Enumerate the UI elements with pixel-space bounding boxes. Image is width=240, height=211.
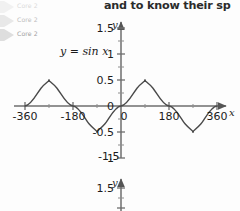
y-tick-label: -0.5: [93, 126, 114, 139]
x-tick-label: -180: [61, 110, 86, 123]
y-tick-label-minus-1-5: -1.5: [98, 150, 114, 163]
chevron-right-icon: [0, 1, 14, 13]
sine-graph-figure: x y -360 -180 0 180 360 1.5 1 0.5 0 -0.5…: [0, 18, 240, 163]
x-tick-label-origin: 0: [121, 110, 128, 123]
y-tick-label-2: 1.5: [97, 182, 115, 195]
y-tick-label: 0: [107, 100, 114, 113]
running-body-text: and to know their sp: [104, 0, 240, 12]
y-tick-label: 1.5: [97, 22, 115, 35]
tab-marker: Core 2: [0, 1, 60, 14]
equation-annotation: y = sin x: [60, 45, 108, 58]
second-graph-figure: y 1.5: [0, 166, 240, 211]
x-axis-letter: x: [229, 107, 235, 118]
x-tick-label: -360: [13, 110, 38, 123]
tab-marker-label: Core 2: [17, 2, 38, 9]
second-graph-svg: y 1.5: [0, 166, 240, 211]
x-tick-label: 180: [159, 110, 180, 123]
y-tick-label: 0.5: [97, 74, 115, 87]
x-tick-label: 360: [207, 110, 228, 123]
sine-graph-svg: x y -360 -180 0 180 360 1.5 1 0.5 0 -0.5…: [0, 18, 240, 163]
scanned-page: and to know their sp Core 2 Core 2 Core …: [0, 0, 240, 211]
